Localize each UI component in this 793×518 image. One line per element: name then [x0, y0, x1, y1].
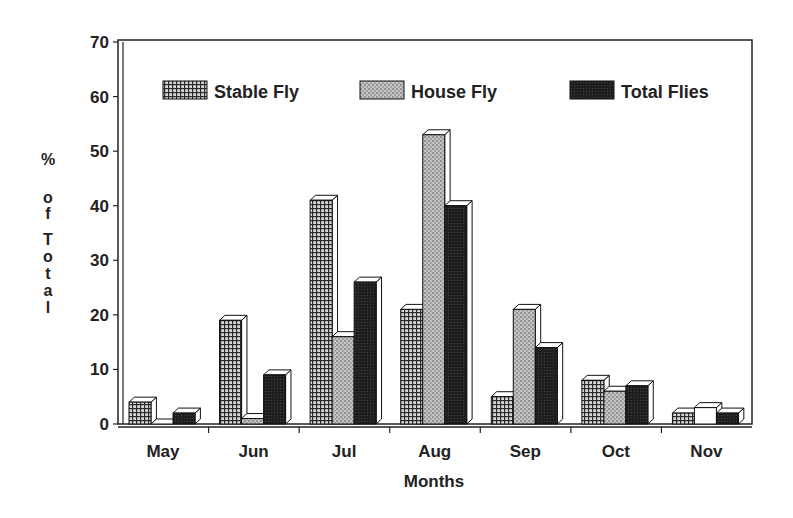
y-tick-label: 50 [90, 142, 109, 161]
y-label-char: T [43, 231, 53, 248]
y-label-char: o [43, 248, 53, 265]
y-label-char: a [44, 282, 53, 299]
y-axis: 010203040506070 [90, 33, 118, 434]
y-axis-label: %ofTotal [41, 151, 55, 316]
y-tick-label: 20 [90, 306, 109, 325]
legend-item-house-fly: House Fly [360, 81, 497, 102]
legend-label: Stable Fly [214, 82, 299, 102]
x-axis: MayJunJulAugSepOctNov [146, 427, 723, 461]
y-tick-label: 0 [100, 415, 109, 434]
x-tick-label: Sep [510, 442, 541, 461]
legend-label: House Fly [411, 82, 497, 102]
bar-total-flies-sep [535, 343, 562, 424]
bar-total-flies-nov [716, 408, 743, 424]
bar-stable-fly-may [129, 397, 156, 424]
y-tick-label: 70 [90, 33, 109, 52]
x-tick-label: Nov [690, 442, 723, 461]
legend-item-total-flies: Total Flies [570, 81, 709, 102]
y-label-char: % [41, 151, 55, 168]
y-tick-label: 60 [90, 88, 109, 107]
x-tick-label: Oct [602, 442, 631, 461]
y-label-char: f [45, 205, 51, 222]
bar-stable-fly-jun [220, 315, 247, 424]
x-tick-label: Jun [238, 442, 268, 461]
x-tick-label: Aug [418, 442, 451, 461]
bars [129, 130, 744, 424]
bar-chart: 010203040506070 MayJunJulAugSepOctNov St… [0, 0, 793, 518]
legend-label: Total Flies [621, 82, 709, 102]
y-tick-label: 10 [90, 360, 109, 379]
y-tick-label: 40 [90, 197, 109, 216]
bar-total-flies-jul [354, 277, 381, 424]
x-tick-label: May [146, 442, 180, 461]
bar-total-flies-jun [264, 370, 291, 424]
y-label-char: t [45, 265, 51, 282]
bar-total-flies-aug [445, 201, 472, 424]
bar-total-flies-may [173, 408, 200, 424]
legend: Stable FlyHouse FlyTotal Flies [163, 81, 709, 102]
y-label-char: o [43, 189, 53, 206]
y-label-char: l [46, 299, 50, 316]
bar-total-flies-oct [626, 381, 653, 424]
x-axis-label: Months [404, 472, 464, 491]
legend-item-stable-fly: Stable Fly [163, 81, 299, 102]
x-tick-label: Jul [332, 442, 357, 461]
y-tick-label: 30 [90, 251, 109, 270]
